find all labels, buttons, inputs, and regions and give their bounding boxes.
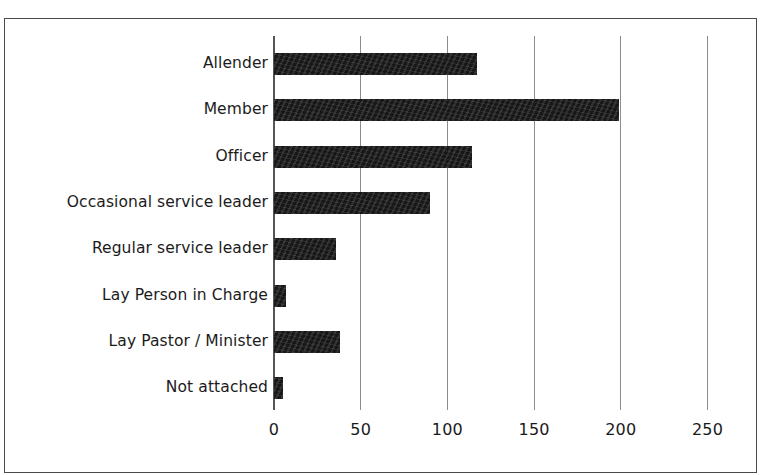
bar: [274, 377, 283, 399]
x-axis-tick-label: 150: [504, 420, 564, 439]
bar: [274, 146, 472, 168]
gridline-250: [707, 36, 708, 410]
chart-page: 050100150200250AllenderMemberOfficerOcca…: [0, 0, 769, 475]
category-label: Not attached: [166, 380, 268, 396]
bar: [274, 331, 340, 353]
bar: [274, 192, 430, 214]
x-axis-tick-label: 0: [244, 420, 304, 439]
category-label: Lay Person in Charge: [102, 288, 268, 304]
bar: [274, 238, 336, 260]
category-label: Regular service leader: [92, 241, 268, 257]
category-label: Occasional service leader: [67, 195, 268, 211]
x-axis-tick-label: 100: [417, 420, 477, 439]
bar: [274, 99, 619, 121]
bar-chart-plot-area: 050100150200250AllenderMemberOfficerOcca…: [0, 0, 769, 475]
gridline-0: [273, 36, 275, 410]
category-label: Lay Pastor / Minister: [109, 334, 268, 350]
x-axis-tick-label: 50: [331, 420, 391, 439]
bar: [274, 285, 286, 307]
gridline-100: [447, 36, 448, 410]
gridline-150: [534, 36, 535, 410]
category-label: Allender: [203, 56, 268, 72]
x-axis-tick-label: 250: [678, 420, 738, 439]
gridline-50: [360, 36, 361, 410]
category-label: Officer: [215, 149, 268, 165]
category-label: Member: [204, 102, 268, 118]
bar: [274, 53, 477, 75]
x-axis-tick-label: 200: [591, 420, 651, 439]
gridline-200: [620, 36, 621, 410]
